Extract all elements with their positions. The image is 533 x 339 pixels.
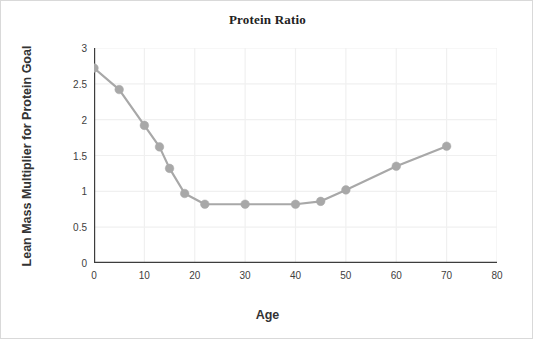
y-axis-tick-label: 3 xyxy=(53,43,87,54)
y-axis-tick-labels: 00.511.522.53 xyxy=(49,48,87,263)
x-axis-tick-label: 20 xyxy=(175,270,215,281)
plot-area xyxy=(94,48,497,263)
y-axis-tick-label: 2 xyxy=(53,114,87,125)
x-axis-tick-label: 10 xyxy=(124,270,164,281)
data-point xyxy=(316,197,325,206)
page-title: Protein Ratio xyxy=(1,12,533,28)
data-point xyxy=(392,162,401,171)
y-axis-tick-label: 2.5 xyxy=(53,78,87,89)
x-axis-tick-label: 30 xyxy=(225,270,265,281)
data-point xyxy=(241,200,250,209)
y-axis-title: Lean Mass Multiplier for Protein Goal xyxy=(20,36,34,276)
data-point xyxy=(115,85,124,94)
y-axis-tick-label: 1.5 xyxy=(53,150,87,161)
x-axis-tick-labels: 01020304050607080 xyxy=(94,270,497,286)
data-point xyxy=(180,189,189,198)
x-axis-tick-label: 50 xyxy=(326,270,366,281)
x-axis-tick-label: 70 xyxy=(427,270,467,281)
data-point xyxy=(442,142,451,151)
chart-container: Protein Ratio Lean Mass Multiplier for P… xyxy=(0,0,533,339)
data-point xyxy=(291,200,300,209)
y-axis-tick-label: 0.5 xyxy=(53,222,87,233)
data-point xyxy=(342,186,351,195)
series-line xyxy=(94,68,447,204)
x-axis-tick-label: 80 xyxy=(477,270,517,281)
data-point xyxy=(155,143,164,152)
y-axis-tick-label: 1 xyxy=(53,186,87,197)
data-point xyxy=(165,164,174,173)
data-point xyxy=(140,121,149,130)
gridlines xyxy=(94,48,497,263)
x-axis-tick-label: 60 xyxy=(376,270,416,281)
x-axis-title: Age xyxy=(1,308,533,322)
x-axis-tick-label: 40 xyxy=(276,270,316,281)
data-point xyxy=(201,200,210,209)
x-axis-tick-label: 0 xyxy=(74,270,114,281)
y-axis-tick-label: 0 xyxy=(53,258,87,269)
series-markers xyxy=(94,64,451,209)
line-chart-svg xyxy=(94,48,497,263)
